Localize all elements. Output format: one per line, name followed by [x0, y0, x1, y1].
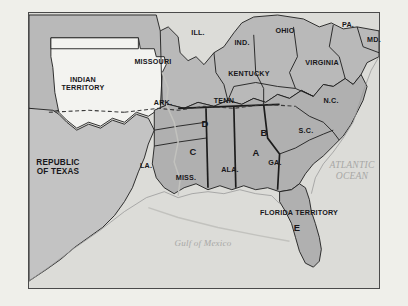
- label-pennsylvania: PA.: [342, 21, 354, 29]
- marker-b: B: [261, 128, 268, 139]
- label-georgia: GA.: [268, 159, 281, 167]
- label-tennessee: TENN.: [214, 97, 237, 105]
- label-north-carolina: N.C.: [323, 97, 338, 105]
- label-republic-of-texas: REPUBLIC OF TEXAS: [36, 158, 79, 176]
- label-atlantic-ocean: ATLANTIC OCEAN: [330, 160, 375, 181]
- label-missouri: MISSOURI: [134, 58, 171, 66]
- label-alabama: ALA.: [221, 166, 239, 174]
- label-virginia: VIRGINIA: [305, 59, 339, 67]
- label-gulf-of-mexico: Gulf of Mexico: [175, 238, 232, 248]
- region-indian-territory-panhandle: [51, 38, 139, 49]
- historical-map-figure: ILL. IND. OHIO PA. MD. VIRGINIA KENTUCKY…: [0, 0, 408, 306]
- label-south-carolina: S.C.: [299, 127, 314, 135]
- label-arkansas: ARK.: [154, 99, 172, 107]
- label-kentucky: KENTUCKY: [228, 70, 270, 78]
- label-indian-territory: INDIAN TERRITORY: [62, 76, 105, 92]
- label-indiana: IND.: [234, 39, 249, 47]
- label-louisiana: LA.: [140, 162, 152, 170]
- marker-d: D: [202, 119, 209, 130]
- label-illinois: ILL.: [191, 29, 205, 37]
- marker-c: C: [190, 147, 197, 158]
- marker-e: E: [294, 223, 300, 234]
- label-florida-territory: FLORIDA TERRITORY: [260, 209, 338, 217]
- label-mississippi: MISS.: [176, 174, 197, 182]
- marker-a: A: [253, 148, 260, 159]
- label-ohio: OHIO: [275, 27, 294, 35]
- label-maryland: MD.: [367, 36, 381, 44]
